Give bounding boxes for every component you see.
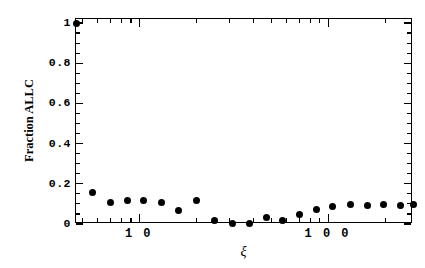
axis-tick (385, 19, 386, 23)
axis-tick (229, 19, 230, 23)
axis-tick (404, 22, 411, 23)
axis-tick (271, 19, 272, 23)
axis-tick (271, 218, 272, 222)
data-point (347, 201, 354, 208)
data-point (380, 201, 387, 208)
data-point (124, 197, 131, 204)
axis-tick (407, 123, 411, 124)
axis-tick (407, 32, 411, 33)
axis-tick (76, 153, 80, 154)
axis-tick (299, 19, 300, 23)
data-point (193, 197, 200, 204)
data-point (410, 201, 417, 208)
axis-tick (328, 214, 329, 222)
axis-tick (76, 193, 80, 194)
axis-tick (407, 53, 411, 54)
axis-tick (253, 218, 254, 222)
axis-tick (286, 19, 287, 23)
axis-tick (404, 63, 411, 64)
axis-tick (310, 19, 311, 23)
axis-tick (407, 163, 411, 164)
axis-tick (407, 113, 411, 114)
data-point (140, 197, 147, 204)
axis-tick (253, 19, 254, 23)
x-tick-label: 1 0 (125, 227, 153, 241)
y-tick-label: 0.4 (49, 136, 71, 149)
chart-figure: 00.20.40.60.81 Fraction ALLC 1 01 0 0 ξ (0, 0, 425, 268)
axis-tick (76, 93, 80, 94)
x-axis-tick-labels: 1 01 0 0 (75, 227, 412, 245)
axis-tick (76, 32, 80, 33)
data-point (211, 217, 218, 224)
axis-tick (121, 218, 122, 222)
axis-tick (196, 218, 197, 222)
axis-tick (286, 218, 287, 222)
axis-tick (139, 214, 140, 222)
data-point (73, 20, 80, 27)
axis-tick (196, 19, 197, 23)
y-axis-title: Fraction ALLC (18, 18, 40, 223)
axis-tick (121, 19, 122, 23)
y-tick-label: 0.2 (49, 176, 71, 189)
y-axis-title-wrapper: Fraction ALLC (18, 223, 40, 268)
axis-tick (76, 203, 80, 204)
axis-tick (407, 173, 411, 174)
axis-tick (310, 218, 311, 222)
axis-tick (319, 218, 320, 222)
data-point (364, 202, 371, 209)
data-point (329, 203, 336, 210)
axis-tick (407, 213, 411, 214)
axis-tick (76, 163, 80, 164)
data-point (279, 217, 286, 224)
data-point (107, 199, 114, 206)
axis-tick (130, 218, 131, 222)
data-point (263, 214, 270, 221)
axis-tick (130, 19, 131, 23)
data-point (158, 199, 165, 206)
axis-tick (76, 83, 80, 84)
axis-tick (407, 43, 411, 44)
axis-tick (76, 73, 80, 74)
axis-tick (76, 173, 80, 174)
axis-tick (385, 218, 386, 222)
axis-tick (82, 218, 83, 222)
plot-area (75, 18, 412, 223)
axis-tick (110, 218, 111, 222)
y-tick-label: 0.6 (49, 96, 71, 109)
axis-tick (76, 123, 80, 124)
axis-tick (76, 183, 83, 184)
x-tick-label: 1 0 0 (305, 227, 351, 241)
axis-tick (407, 73, 411, 74)
axis-tick (319, 19, 320, 23)
axis-tick (404, 223, 411, 224)
axis-tick (76, 43, 80, 44)
axis-tick (76, 113, 80, 114)
axis-tick (407, 193, 411, 194)
axis-tick (76, 63, 83, 64)
y-tick-label: 0.8 (49, 56, 71, 69)
axis-tick (407, 83, 411, 84)
axis-tick (97, 218, 98, 222)
axis-tick (76, 223, 83, 224)
axis-tick (97, 19, 98, 23)
x-axis-title: ξ (75, 244, 412, 260)
axis-tick (76, 133, 80, 134)
axis-tick (407, 133, 411, 134)
axis-tick (299, 218, 300, 222)
y-tick-label: 1 (64, 16, 71, 29)
data-point (397, 202, 404, 209)
axis-tick (76, 143, 83, 144)
axis-tick (139, 19, 140, 27)
axis-tick (76, 103, 83, 104)
axis-tick (110, 19, 111, 23)
axis-tick (76, 53, 80, 54)
data-point (313, 206, 320, 213)
axis-tick (76, 213, 80, 214)
data-point (89, 189, 96, 196)
data-point (246, 220, 253, 227)
data-point (296, 211, 303, 218)
axis-tick (407, 93, 411, 94)
y-tick-label: 0 (64, 217, 71, 230)
data-point (175, 207, 182, 214)
axis-tick (328, 19, 329, 27)
